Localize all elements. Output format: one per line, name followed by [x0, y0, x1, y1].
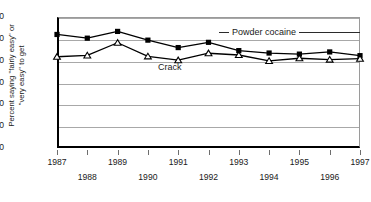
y-tick-label: 40: [0, 55, 4, 65]
y-tick-label: 10: [0, 120, 4, 130]
y-axis-title: Percent saying "fairly easy" or "very ea…: [0, 0, 30, 160]
x-tick-mark: [57, 150, 58, 155]
x-tick-mark: [299, 150, 300, 155]
y-axis-title-line-2: "very easy" to get: [17, 5, 27, 145]
x-tick-label: 1989: [101, 157, 135, 167]
y-tick-label: 0: [0, 142, 4, 152]
x-tick-label: 1992: [192, 172, 226, 182]
y-tick-label: 20: [0, 98, 4, 108]
x-tick-mark: [178, 150, 179, 155]
x-tick-label: 1988: [70, 172, 104, 182]
gridline: [59, 18, 359, 19]
x-tick-label: 1997: [343, 157, 371, 167]
annotation-leader-left: [219, 32, 229, 33]
x-tick-mark: [269, 150, 270, 155]
x-tick-mark: [209, 150, 210, 155]
y-tick-label: 50: [0, 33, 4, 43]
x-tick-mark: [118, 150, 119, 155]
y-tick-label: 30: [0, 77, 4, 87]
chart-figure: Percent saying "fairly easy" or "very ea…: [0, 0, 371, 202]
gridline: [59, 105, 359, 106]
x-tick-mark: [148, 150, 149, 155]
x-tick-mark: [87, 150, 88, 155]
x-tick-label: 1987: [40, 157, 74, 167]
plot-area: [57, 17, 360, 148]
x-tick-mark: [360, 150, 361, 155]
x-tick-label: 1993: [222, 157, 256, 167]
annotation-leader-right: [299, 32, 360, 33]
gridline: [59, 127, 359, 128]
x-tick-mark: [330, 150, 331, 155]
annotation-powder-cocaine: Powder cocaine: [232, 27, 296, 37]
x-tick-label: 1996: [313, 172, 347, 182]
x-tick-label: 1991: [161, 157, 195, 167]
annotation-crack: Crack: [158, 62, 182, 72]
gridline: [59, 84, 359, 85]
y-tick-label: 60: [0, 11, 4, 21]
gridline: [59, 40, 359, 41]
gridline: [59, 62, 359, 63]
y-axis-title-line-1: Percent saying "fairly easy" or: [7, 5, 17, 145]
x-tick-label: 1995: [282, 157, 316, 167]
x-tick-mark: [239, 150, 240, 155]
x-tick-label: 1990: [131, 172, 165, 182]
x-tick-label: 1994: [252, 172, 286, 182]
